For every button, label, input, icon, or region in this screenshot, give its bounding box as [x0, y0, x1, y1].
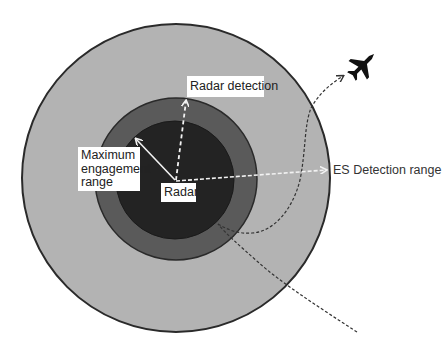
max-engagement-line-3: range	[81, 176, 137, 190]
radar-zones-diagram	[0, 0, 442, 355]
es-detection-label: ES Detection range	[333, 163, 441, 177]
max-engagement-label: Maximum engagement range	[78, 147, 140, 191]
max-engagement-line-1: Maximum	[81, 149, 137, 163]
fighter-jet-icon	[342, 45, 383, 86]
max-engagement-line-2: engagement	[81, 163, 137, 177]
radar-detection-label: Radar detection	[187, 76, 264, 97]
radar-label: Radar	[161, 183, 196, 202]
